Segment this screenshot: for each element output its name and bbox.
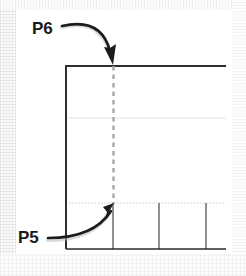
- annotation-p6-arrow-shadow: [62, 25, 110, 52]
- step-curve: [66, 66, 226, 249]
- figure-root: P6 P5: [0, 0, 246, 276]
- annotation-p6: P6: [32, 19, 116, 65]
- annotation-p6-label: P6: [32, 19, 52, 38]
- annotation-p5-arrow-shadow: [48, 212, 110, 240]
- chart-canvas: P6 P5: [0, 0, 246, 276]
- annotation-p5-label: P5: [18, 228, 38, 247]
